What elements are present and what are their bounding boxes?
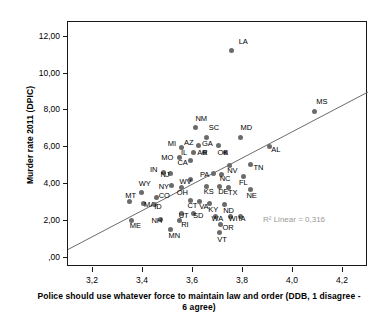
data-point-label: MI — [168, 139, 176, 148]
data-point-label: ME — [130, 221, 141, 230]
data-point-label: MT — [125, 191, 136, 200]
data-point-label: SD — [193, 211, 203, 220]
data-point-label: NC — [220, 174, 231, 183]
data-point-label: NJ — [161, 170, 170, 179]
x-tick-label: 3,4 — [124, 275, 160, 285]
data-point-label: CA — [178, 158, 188, 167]
data-point-label: IN — [150, 165, 157, 174]
y-tick-label: 6,00 — [24, 141, 60, 151]
data-point-label: LA — [239, 37, 248, 46]
data-point-label: KY — [208, 205, 218, 214]
y-tick-label: 8,00 — [24, 104, 60, 114]
x-tick-mark — [242, 267, 243, 272]
y-tick-label: 12,00 — [24, 31, 60, 41]
data-point — [127, 199, 132, 204]
data-point-label: WV — [180, 177, 192, 186]
x-tick-label: 3,6 — [174, 275, 210, 285]
y-tick-label: 4,00 — [24, 178, 60, 188]
x-tick-label: 4,2 — [324, 275, 360, 285]
data-point-label: OK — [218, 148, 229, 157]
data-point-label: TX — [228, 188, 237, 197]
data-point-label: IA — [239, 214, 246, 223]
x-axis-title: Police should use whatever force to main… — [34, 291, 364, 313]
x-tick-mark — [142, 267, 143, 272]
data-point-label: OH — [177, 188, 188, 197]
data-point-label: MS — [316, 97, 327, 106]
data-point-label: KS — [204, 187, 214, 196]
data-point-label: CT — [188, 201, 198, 210]
x-tick-mark — [342, 267, 343, 272]
x-tick-label: 4,0 — [274, 275, 310, 285]
data-point-label: NH — [152, 216, 163, 225]
data-point — [312, 109, 317, 114]
r-squared-annotation: R² Linear = 0,316 — [263, 215, 325, 224]
data-point-label: AR — [197, 148, 207, 157]
x-tick-label: 3,8 — [224, 275, 260, 285]
data-point-label: FL — [239, 178, 248, 187]
data-point — [188, 158, 193, 163]
data-point-label: OR — [223, 223, 234, 232]
data-point-label: AZ — [184, 138, 193, 147]
data-point-label: IL — [181, 148, 187, 157]
data-point — [191, 150, 196, 155]
x-tick-label: 3,2 — [74, 275, 110, 285]
data-point-label: MD — [241, 123, 252, 132]
x-tick-mark — [292, 267, 293, 272]
y-tick-label: 2,00 — [24, 215, 60, 225]
data-point-label: SC — [209, 123, 219, 132]
data-point — [211, 171, 216, 176]
y-tick-label: 10,00 — [24, 68, 60, 78]
data-point-label: RI — [181, 220, 188, 229]
data-point — [169, 183, 174, 188]
data-point-label: MN — [169, 231, 180, 240]
y-tick-label: ,00 — [24, 252, 60, 262]
data-point-label: VT — [217, 235, 226, 244]
data-point-label: WY — [139, 179, 151, 188]
data-point-label: MO — [161, 153, 173, 162]
plot-area: LAMSNMSCMDAZGAALMIILAROKMOCANVTNINNJPANC… — [67, 21, 367, 266]
data-point-label: CO — [159, 191, 170, 200]
scatter-plot-figure: Murder rate 2011 (DPIC) Police should us… — [0, 0, 383, 324]
data-point — [238, 135, 243, 140]
x-tick-mark — [192, 267, 193, 272]
data-point-label: NM — [196, 114, 207, 123]
data-point-label: TN — [254, 163, 264, 172]
data-point-label: AL — [271, 145, 280, 154]
data-point-label: NY — [159, 182, 169, 191]
data-point-label: PA — [200, 170, 209, 179]
data-point-label: ID — [154, 202, 161, 211]
x-tick-mark — [92, 267, 93, 272]
data-point-label: NE — [247, 191, 257, 200]
